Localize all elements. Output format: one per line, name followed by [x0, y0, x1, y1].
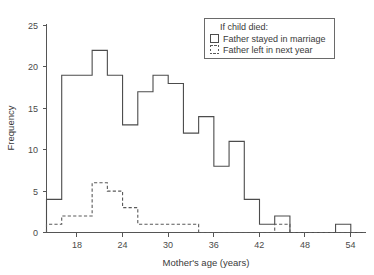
x-tick-label-24: 24 [117, 240, 127, 250]
legend-title: If child died: [220, 22, 268, 32]
y-tick-label-5: 5 [33, 187, 38, 197]
x-tick-marks [77, 233, 351, 238]
series-father-stayed-steps [47, 50, 367, 232]
y-tick-labels: 0 5 10 15 20 25 [28, 21, 38, 238]
x-tick-label-54: 54 [345, 240, 355, 250]
legend: If child died: Father stayed in marriage… [205, 19, 335, 59]
histogram-figure: 0 5 10 15 20 25 18 24 30 36 42 48 54 [0, 0, 374, 275]
legend-entry-0-label: Father stayed in marriage [223, 34, 326, 44]
x-tick-label-48: 48 [300, 240, 310, 250]
x-tick-labels: 18 24 30 36 42 48 54 [72, 240, 356, 250]
legend-entry-1-label: Father left in next year [223, 45, 313, 55]
series-father-left-steps [47, 183, 367, 233]
x-tick-label-18: 18 [72, 240, 82, 250]
y-axis-title: Frequency [5, 105, 16, 150]
y-tick-label-25: 25 [28, 21, 38, 31]
y-tick-label-15: 15 [28, 104, 38, 114]
y-tick-marks [43, 26, 47, 233]
y-tick-label-20: 20 [28, 62, 38, 72]
x-tick-label-30: 30 [163, 240, 173, 250]
y-tick-label-0: 0 [33, 228, 38, 238]
chart-canvas: 0 5 10 15 20 25 18 24 30 36 42 48 54 [0, 0, 374, 275]
x-tick-label-36: 36 [209, 240, 219, 250]
x-tick-label-42: 42 [254, 240, 264, 250]
y-tick-label-10: 10 [28, 145, 38, 155]
x-axis-title: Mother's age (years) [163, 257, 250, 268]
